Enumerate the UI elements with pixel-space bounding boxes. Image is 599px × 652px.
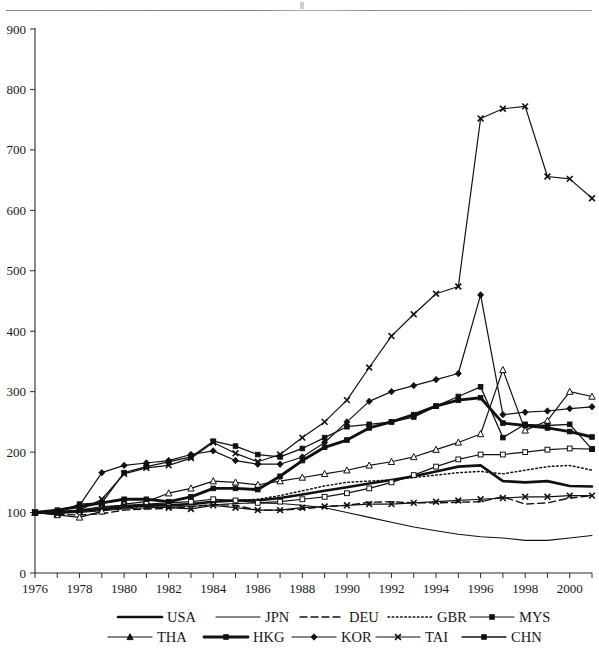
x-tick-label: 1980	[111, 581, 137, 596]
series-marker-diamond	[277, 461, 283, 467]
series-marker-square	[567, 422, 572, 427]
series-marker-square	[322, 435, 327, 440]
chart-legend: USAJPNDEUGBRMYSTHAHKGKORTAICHN	[108, 609, 550, 645]
series-marker-square	[523, 450, 528, 455]
series-marker-square	[590, 447, 595, 452]
x-tick-label: 1982	[156, 581, 182, 596]
series-marker-square	[456, 457, 461, 462]
legend-item-tai[interactable]: TAI	[376, 629, 448, 645]
legend-label-mys: MYS	[519, 609, 550, 625]
series-marker-diamond	[311, 634, 317, 640]
y-tick-label: 400	[7, 324, 27, 339]
series-marker-square	[545, 447, 550, 452]
series-layer	[32, 103, 595, 540]
series-marker-square	[345, 424, 350, 429]
y-tick-label: 100	[7, 505, 27, 520]
x-tick-label: 1994	[423, 581, 450, 596]
legend-item-kor[interactable]: KOR	[292, 629, 372, 645]
series-marker-diamond	[522, 409, 528, 415]
legend-label-deu: DEU	[349, 609, 379, 625]
series-marker-diamond	[589, 404, 595, 410]
y-tick-label: 700	[7, 142, 27, 157]
series-marker-x	[433, 291, 439, 297]
x-tick-label: 1986	[245, 581, 272, 596]
series-marker-square	[77, 502, 82, 507]
series-marker-square	[490, 615, 495, 620]
series-marker-square	[144, 497, 149, 502]
x-tick-label: 1992	[378, 581, 404, 596]
series-marker-x	[411, 311, 417, 317]
series-marker-square	[389, 420, 394, 425]
y-axis-ticks: 0100200300400500600700800900	[7, 22, 36, 581]
series-marker-square	[456, 394, 461, 399]
x-tick-label: 1978	[67, 581, 93, 596]
legend-item-deu[interactable]: DEU	[300, 609, 379, 625]
series-marker-square	[523, 422, 528, 427]
y-tick-label: 800	[7, 82, 27, 97]
series-marker-square	[224, 635, 229, 640]
series-marker-diamond	[121, 462, 127, 468]
series-marker-diamond	[500, 411, 506, 417]
x-tick-label: 1998	[512, 581, 538, 596]
series-marker-x	[366, 365, 372, 371]
series-marker-square	[189, 495, 194, 500]
y-tick-label: 500	[7, 263, 27, 278]
series-marker-square	[211, 486, 216, 491]
series-marker-square	[482, 635, 487, 640]
legend-item-tha[interactable]: THA	[108, 629, 187, 645]
series-marker-triangle	[567, 388, 573, 394]
series-marker-square	[367, 422, 372, 427]
series-marker-square	[434, 464, 439, 469]
series-marker-diamond	[478, 292, 484, 298]
series-marker-square	[501, 421, 506, 426]
series-marker-square	[345, 438, 350, 443]
legend-label-gbr: GBR	[437, 609, 467, 625]
legend-item-gbr[interactable]: GBR	[388, 609, 467, 625]
series-marker-triangle	[477, 431, 483, 437]
legend-label-tai: TAI	[425, 629, 448, 645]
legend-item-mys[interactable]: MYS	[470, 609, 550, 625]
series-marker-square	[278, 499, 283, 504]
series-marker-square	[322, 494, 327, 499]
line-chart: 0100200300400500600700800900 19761978198…	[0, 0, 599, 652]
series-marker-x	[589, 195, 595, 201]
legend-item-jpn[interactable]: JPN	[216, 609, 290, 625]
series-marker-square	[500, 452, 505, 457]
y-tick-label: 200	[7, 445, 27, 460]
series-marker-square	[233, 498, 238, 503]
series-marker-x	[389, 333, 395, 339]
legend-item-chn[interactable]: CHN	[462, 629, 542, 645]
legend-label-hkg: HKG	[253, 629, 285, 645]
series-marker-square	[567, 429, 572, 434]
x-tick-label: 2000	[557, 581, 583, 596]
legend-label-jpn: JPN	[265, 609, 290, 625]
series-marker-square	[478, 452, 483, 457]
series-marker-diamond	[455, 370, 461, 376]
series-marker-x	[344, 397, 350, 403]
series-marker-diamond	[544, 408, 550, 414]
series-line-hkg	[35, 398, 592, 513]
series-marker-square	[211, 497, 216, 502]
series-marker-x	[299, 435, 305, 441]
x-tick-label: 1996	[468, 581, 495, 596]
y-tick-label: 600	[7, 203, 27, 218]
legend-label-kor: KOR	[341, 629, 372, 645]
series-marker-square	[590, 435, 595, 440]
series-marker-square	[300, 446, 305, 451]
series-marker-square	[300, 497, 305, 502]
series-marker-square	[367, 486, 372, 491]
series-marker-diamond	[233, 457, 239, 463]
series-marker-diamond	[388, 388, 394, 394]
y-tick-label: 0	[20, 566, 27, 581]
legend-item-hkg[interactable]: HKG	[204, 629, 285, 645]
series-marker-square	[278, 474, 283, 479]
series-marker-square	[256, 487, 261, 492]
series-tai	[32, 493, 595, 517]
y-tick-label: 900	[7, 22, 27, 37]
series-marker-square	[545, 423, 550, 428]
legend-item-usa[interactable]: USA	[118, 609, 197, 625]
series-marker-square	[166, 499, 171, 504]
x-tick-label: 1990	[334, 581, 360, 596]
series-marker-square	[233, 486, 238, 491]
series-marker-diamond	[411, 382, 417, 388]
